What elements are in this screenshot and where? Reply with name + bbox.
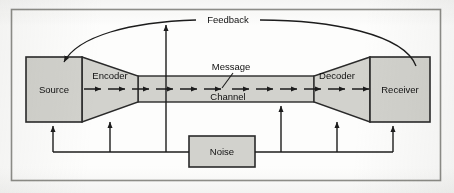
- source-label: Source: [39, 84, 69, 95]
- feedback-arc-left: [64, 20, 196, 62]
- message-label: Message: [212, 61, 251, 72]
- feedback-label: Feedback: [207, 14, 249, 25]
- channel-label: Channel: [210, 91, 245, 102]
- diagram-canvas: Source Encoder Channel Message Decoder R…: [0, 0, 454, 193]
- encoder-label: Encoder: [92, 70, 127, 81]
- receiver-label: Receiver: [381, 84, 419, 95]
- noise-label: Noise: [210, 146, 234, 157]
- communication-model-figure: Source Encoder Channel Message Decoder R…: [0, 0, 454, 193]
- decoder-label: Decoder: [319, 70, 355, 81]
